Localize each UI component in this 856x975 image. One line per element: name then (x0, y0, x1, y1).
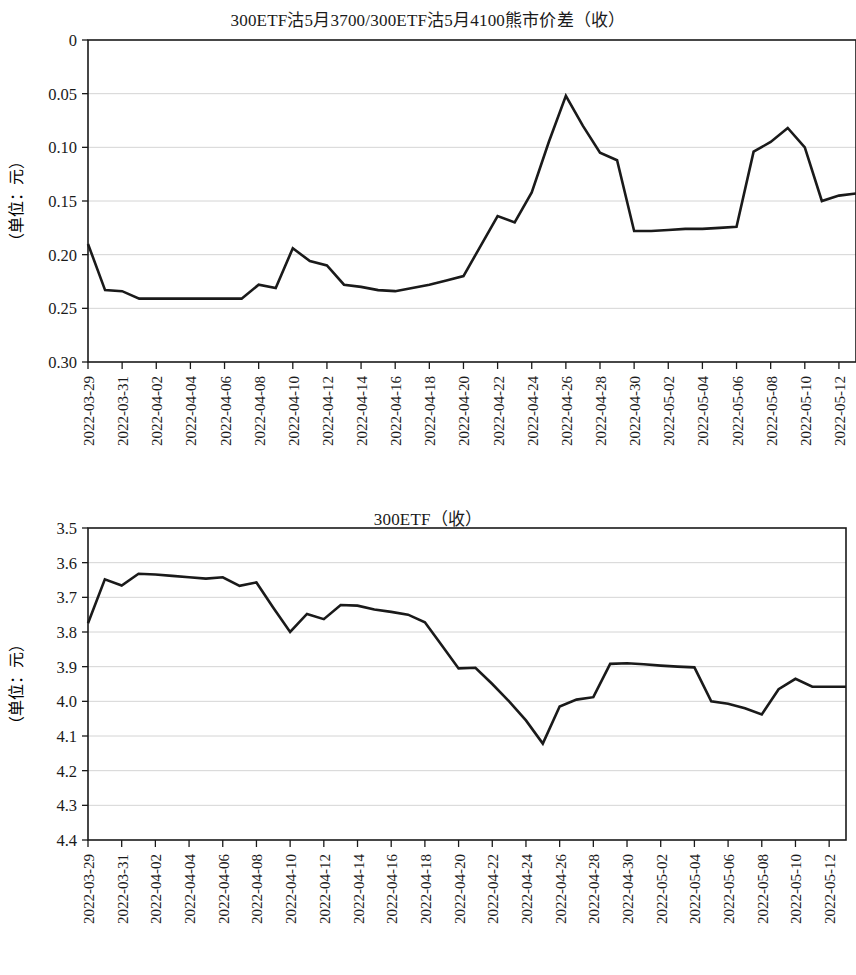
chart1-svg: 0.300.250.200.150.100.0502022-03-292022-… (0, 0, 856, 495)
y-tick-label: 4.0 (56, 692, 77, 711)
x-tick-label: 2022-04-26 (559, 376, 575, 446)
x-tick-label: 2022-04-08 (249, 854, 265, 924)
x-tick-label: 2022-04-12 (320, 376, 336, 446)
plot-frame (88, 528, 846, 840)
data-line (88, 96, 856, 299)
x-tick-label: 2022-03-29 (81, 854, 97, 924)
x-tick-label: 2022-04-22 (485, 854, 501, 924)
x-tick-label: 2022-04-28 (593, 376, 609, 446)
x-tick-label: 2022-03-29 (81, 376, 97, 446)
x-tick-label: 2022-05-06 (721, 854, 737, 924)
x-tick-label: 2022-05-02 (654, 854, 670, 924)
y-tick-label: 3.6 (56, 554, 77, 573)
y-tick-label: 3.8 (56, 623, 77, 642)
data-line (88, 574, 846, 744)
x-tick-label: 2022-04-08 (252, 376, 268, 446)
chart-panel-spread: 300ETF沽5月3700/300ETF沽5月4100熊市价差（收） 0.300… (0, 0, 856, 495)
x-tick-label: 2022-04-20 (452, 854, 468, 924)
y-tick-label: 0.25 (48, 299, 77, 318)
x-tick-label: 2022-03-31 (115, 854, 131, 924)
x-tick-label: 2022-04-30 (627, 376, 643, 446)
x-tick-label: 2022-04-14 (351, 854, 367, 924)
chart-panel-etf: 300ETF（收） 4.44.34.24.14.03.93.83.73.63.5… (0, 495, 856, 975)
x-tick-label: 2022-05-06 (730, 376, 746, 446)
x-tick-label: 2022-04-24 (519, 854, 535, 924)
y-tick-label: 0.10 (48, 138, 77, 157)
y-tick-label: 0 (69, 31, 77, 50)
x-tick-label: 2022-04-14 (354, 376, 370, 446)
y-tick-label: 3.5 (56, 519, 77, 538)
x-tick-label: 2022-05-02 (661, 376, 677, 446)
x-tick-label: 2022-04-30 (620, 854, 636, 924)
y-tick-label: 4.1 (56, 727, 77, 746)
x-tick-label: 2022-05-12 (832, 376, 848, 446)
x-tick-label: 2022-04-22 (491, 376, 507, 446)
chart2-svg: 4.44.34.24.14.03.93.83.73.63.52022-03-29… (0, 495, 856, 975)
x-tick-label: 2022-04-26 (553, 854, 569, 924)
x-tick-label: 2022-05-08 (764, 376, 780, 446)
x-tick-label: 2022-05-04 (695, 376, 711, 446)
x-tick-label: 2022-05-04 (687, 854, 703, 924)
y-tick-label: 4.3 (56, 796, 77, 815)
x-tick-label: 2022-04-04 (183, 376, 199, 446)
x-tick-label: 2022-04-04 (182, 854, 198, 924)
y-tick-label: 0.30 (48, 353, 77, 372)
x-tick-label: 2022-04-20 (456, 376, 472, 446)
x-tick-label: 2022-04-10 (286, 376, 302, 446)
y-tick-label: 0.15 (48, 192, 77, 211)
x-tick-label: 2022-04-10 (283, 854, 299, 924)
y-tick-label: 3.9 (56, 658, 77, 677)
y-tick-label: 0.05 (48, 85, 77, 104)
x-tick-label: 2022-04-16 (388, 376, 404, 446)
x-tick-label: 2022-04-06 (216, 854, 232, 924)
x-tick-label: 2022-03-31 (115, 376, 131, 446)
x-tick-label: 2022-04-28 (586, 854, 602, 924)
y-tick-label: 4.4 (56, 831, 77, 850)
y-axis-title: （单位：元） (8, 153, 25, 249)
y-axis-title: （单位：元） (8, 636, 25, 732)
y-tick-label: 3.7 (56, 588, 77, 607)
y-tick-label: 4.2 (56, 762, 77, 781)
x-tick-label: 2022-04-18 (422, 376, 438, 446)
x-tick-label: 2022-04-02 (149, 376, 165, 446)
x-tick-label: 2022-04-16 (384, 854, 400, 924)
x-tick-label: 2022-04-18 (418, 854, 434, 924)
x-tick-label: 2022-05-12 (822, 854, 838, 924)
x-tick-label: 2022-05-10 (798, 376, 814, 446)
chart1-plot-area: 0.300.250.200.150.100.0502022-03-292022-… (0, 0, 856, 495)
x-tick-label: 2022-04-06 (218, 376, 234, 446)
x-tick-label: 2022-04-02 (148, 854, 164, 924)
x-tick-label: 2022-04-12 (317, 854, 333, 924)
chart2-plot-area: 4.44.34.24.14.03.93.83.73.63.52022-03-29… (0, 495, 856, 975)
x-tick-label: 2022-05-08 (755, 854, 771, 924)
x-tick-label: 2022-05-10 (788, 854, 804, 924)
x-tick-label: 2022-04-24 (525, 376, 541, 446)
y-tick-label: 0.20 (48, 246, 77, 265)
